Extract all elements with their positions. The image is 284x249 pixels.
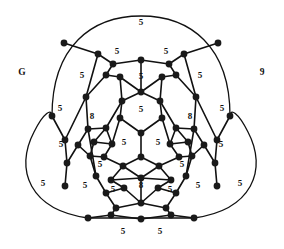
face-label: 5 <box>139 104 144 114</box>
graph-edge <box>65 163 67 186</box>
graph-figure: 55555558885555555555555555 G 9 <box>0 0 284 249</box>
face-label: 5 <box>139 71 144 81</box>
graph-vertex <box>103 72 110 79</box>
graph-vertex <box>138 89 145 96</box>
graph-edge <box>217 116 230 140</box>
graph-vertex <box>181 51 188 58</box>
face-label: 5 <box>180 159 185 169</box>
face-label: 5 <box>238 178 243 188</box>
graph-vertex <box>138 57 145 64</box>
face-label: 5 <box>98 159 103 169</box>
graph-vertex <box>113 205 120 212</box>
graph-vertex <box>93 173 100 180</box>
graph-vertex <box>193 94 200 101</box>
graph-edge <box>113 60 141 64</box>
graph-vertex <box>85 126 92 133</box>
graph-vertex <box>103 190 110 197</box>
graph-vertex <box>215 40 222 47</box>
face-label: 5 <box>158 226 163 236</box>
graph-vertex <box>117 74 124 81</box>
graph-edge <box>215 163 217 186</box>
graph-vertex <box>62 183 69 190</box>
graph-vertex <box>159 115 166 122</box>
graph-edge <box>141 203 166 208</box>
face-label: 5 <box>139 17 144 27</box>
face-label: 5 <box>156 137 161 147</box>
face-label: 5 <box>220 103 225 113</box>
graph-vertex <box>61 40 68 47</box>
graph-edge <box>65 97 86 140</box>
face-label: 5 <box>59 139 64 149</box>
right-graph-label: 9 <box>260 67 265 77</box>
graph-vertex <box>91 139 98 146</box>
graph-vertex <box>121 185 128 192</box>
graph-edge <box>120 118 141 133</box>
face-label: 5 <box>168 184 173 194</box>
graph-vertex <box>167 141 174 148</box>
graph-edge <box>106 101 122 128</box>
graph-vertex <box>110 61 117 68</box>
graph-vertex <box>189 153 196 160</box>
face-label: 5 <box>122 137 127 147</box>
graph-vertex <box>201 142 208 149</box>
face-label: 5 <box>115 46 120 56</box>
graph-edge <box>215 140 217 163</box>
graph-vertex <box>157 98 164 105</box>
graph-vertex <box>87 153 94 160</box>
graph-vertex <box>103 125 110 132</box>
graph-edge <box>196 97 217 140</box>
graph-vertex <box>108 177 115 184</box>
face-label: 5 <box>196 180 201 190</box>
graph-vertex <box>155 185 162 192</box>
face-label: 8 <box>188 111 193 121</box>
graph-vertex <box>138 130 145 137</box>
graph-vertex <box>166 61 173 68</box>
face-label: 5 <box>80 70 85 80</box>
face-label: 5 <box>111 184 116 194</box>
left-graph-label: G <box>18 67 26 77</box>
graph-edge <box>64 43 98 54</box>
face-label: 5 <box>41 178 46 188</box>
graph-edge <box>141 188 158 203</box>
graph-vertex <box>168 177 175 184</box>
boundary-arc-right-lobe <box>194 112 256 218</box>
graph-vertex <box>173 125 180 132</box>
graph-vertex <box>214 183 221 190</box>
face-label: 5 <box>58 103 63 113</box>
graph-vertex <box>108 212 115 219</box>
graph-edge <box>184 43 218 54</box>
graph-vertex <box>191 126 198 133</box>
graph-vertex <box>183 173 190 180</box>
graph-vertex <box>120 163 127 170</box>
face-label: 8 <box>139 180 144 190</box>
graph-edge <box>141 118 162 133</box>
graph-vertex <box>159 74 166 81</box>
graph-vertex <box>173 190 180 197</box>
graph-vertex <box>109 141 116 148</box>
graph-edge <box>186 129 194 176</box>
face-label: 5 <box>198 70 203 80</box>
graph-vertex <box>173 72 180 79</box>
graph-vertex <box>49 113 56 120</box>
graph-vertex <box>138 154 145 161</box>
graph-vertex <box>156 163 163 170</box>
graph-vertex <box>83 94 90 101</box>
graph-vertex <box>163 205 170 212</box>
graph-vertex <box>85 215 92 222</box>
graph-edge <box>162 118 170 144</box>
face-label: 5 <box>121 226 126 236</box>
graph-edge <box>141 60 169 64</box>
graph-edge <box>160 101 176 128</box>
graph-vertex <box>64 160 71 167</box>
graph-edge <box>160 77 162 101</box>
graph-vertex <box>95 51 102 58</box>
boundary-arc-left-lobe <box>26 112 88 218</box>
graph-vertex <box>227 113 234 120</box>
graph-vertex <box>191 215 198 222</box>
graph-vertex <box>212 160 219 167</box>
graph-vertex <box>75 142 82 149</box>
graph-edge <box>141 77 162 92</box>
graph-edge <box>65 140 67 163</box>
graph-edge <box>124 188 141 203</box>
planar-graph-svg: 55555558885555555555555555 G 9 <box>0 0 284 249</box>
